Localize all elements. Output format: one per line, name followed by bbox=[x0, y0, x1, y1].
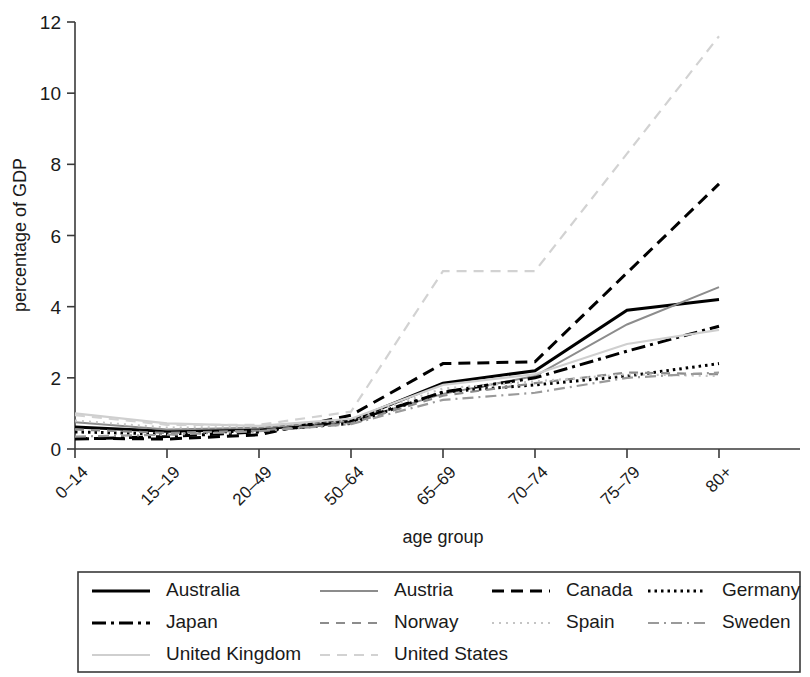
series-line-united-states bbox=[75, 36, 719, 425]
y-tick-label: 0 bbox=[50, 439, 61, 460]
y-tick-label: 4 bbox=[50, 297, 61, 318]
x-tick-label: 15–19 bbox=[137, 462, 184, 509]
x-tick-label: 80+ bbox=[702, 462, 736, 496]
y-tick-label: 2 bbox=[50, 368, 61, 389]
y-axis-title: percentage of GDP bbox=[10, 158, 30, 312]
x-tick-label: 65–69 bbox=[413, 462, 460, 509]
legend-label: Spain bbox=[566, 611, 615, 632]
legend-label: Germany bbox=[722, 579, 801, 600]
legend-label: Australia bbox=[166, 579, 240, 600]
gdp-by-age-group-line-chart: 024681012 0–1415–1920–4950–6465–6970–747… bbox=[0, 0, 810, 677]
x-tick-label: 75–79 bbox=[597, 462, 644, 509]
legend-item-germany[interactable]: Germany bbox=[648, 579, 801, 600]
y-tick-label: 6 bbox=[50, 226, 61, 247]
legend-label: Canada bbox=[566, 579, 633, 600]
legend-item-united-states[interactable]: United States bbox=[320, 643, 508, 664]
legend-item-norway[interactable]: Norway bbox=[320, 611, 459, 632]
chart-figure: 024681012 0–1415–1920–4950–6465–6970–747… bbox=[0, 0, 810, 677]
y-axis: 024681012 bbox=[40, 12, 75, 460]
legend-item-united-kingdom[interactable]: United Kingdom bbox=[92, 643, 301, 664]
legend-item-austria[interactable]: Austria bbox=[320, 579, 454, 600]
legend-item-canada[interactable]: Canada bbox=[492, 579, 633, 600]
x-axis: 0–1415–1920–4950–6465–6970–7475–7980+ bbox=[52, 449, 800, 509]
x-tick-label: 50–64 bbox=[321, 462, 368, 509]
x-tick-label: 20–49 bbox=[229, 462, 276, 509]
legend-label: Austria bbox=[394, 579, 454, 600]
y-tick-label: 12 bbox=[40, 12, 61, 33]
legend-label: Sweden bbox=[722, 611, 791, 632]
series-line-sweden bbox=[75, 373, 719, 437]
chart-legend: AustraliaAustriaCanadaGermanyJapanNorway… bbox=[78, 572, 801, 672]
legend-label: Japan bbox=[166, 611, 218, 632]
legend-item-spain[interactable]: Spain bbox=[492, 611, 615, 632]
x-axis-title: age group bbox=[402, 527, 483, 547]
legend-label: Norway bbox=[394, 611, 459, 632]
x-tick-label: 0–14 bbox=[52, 462, 92, 502]
y-tick-label: 8 bbox=[50, 154, 61, 175]
legend-label: United States bbox=[394, 643, 508, 664]
legend-label: United Kingdom bbox=[166, 643, 301, 664]
y-tick-label: 10 bbox=[40, 83, 61, 104]
series-lines bbox=[75, 36, 719, 439]
x-tick-label: 70–74 bbox=[505, 462, 552, 509]
legend-item-japan[interactable]: Japan bbox=[92, 611, 218, 632]
legend-item-australia[interactable]: Australia bbox=[92, 579, 240, 600]
legend-item-sweden[interactable]: Sweden bbox=[648, 611, 791, 632]
